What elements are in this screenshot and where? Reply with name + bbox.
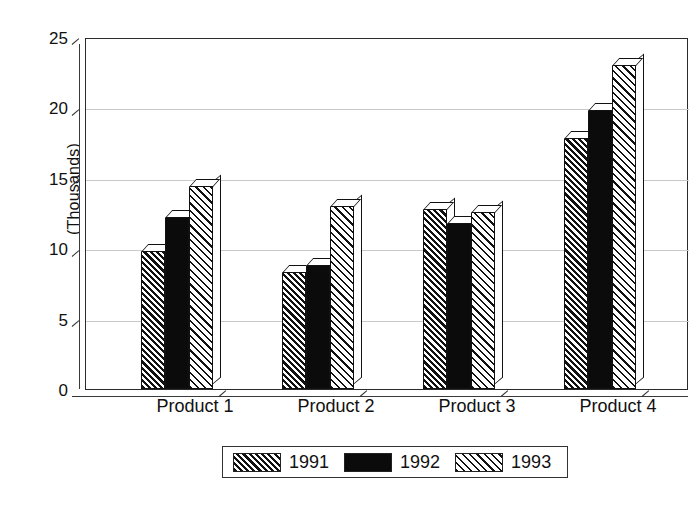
bar-face xyxy=(447,223,471,389)
y-tick-mark-0 xyxy=(72,396,81,397)
legend-label-1993: 1993 xyxy=(511,453,557,471)
legend-label-1991: 1991 xyxy=(289,453,335,471)
y-tick-label-10: 10 xyxy=(34,241,68,258)
bar-product-1-1991 xyxy=(141,251,165,389)
legend-item-1991: 1991 xyxy=(233,453,335,472)
chart-legend: 1991 1992 1993 xyxy=(222,446,568,478)
bar-face xyxy=(588,110,612,389)
bar-face xyxy=(282,272,306,389)
bar-product-4-1991 xyxy=(564,138,588,389)
y-tick-label-15: 15 xyxy=(34,171,68,188)
bar-product-3-1991 xyxy=(423,209,447,389)
legend-swatch-1991 xyxy=(233,453,281,472)
bar-product-1-1993 xyxy=(189,186,213,389)
bar-side xyxy=(494,200,503,385)
plot-area xyxy=(85,38,688,390)
x-tick-label-product-3: Product 3 xyxy=(412,396,542,416)
bar-product-4-1992 xyxy=(588,110,612,389)
legend-item-1993: 1993 xyxy=(455,453,557,472)
bar-side xyxy=(635,53,644,385)
legend-label-1992: 1992 xyxy=(400,453,446,471)
bar-product-3-1992 xyxy=(447,223,471,389)
y-tick-label-25: 25 xyxy=(34,30,68,47)
bar-product-2-1993 xyxy=(330,206,354,389)
legend-item-1992: 1992 xyxy=(344,453,446,472)
x-tick-label-product-4: Product 4 xyxy=(553,396,683,416)
x-tick-label-product-1: Product 1 xyxy=(130,396,260,416)
bar-product-1-1992 xyxy=(165,217,189,389)
bar-face xyxy=(189,186,213,389)
bar-face xyxy=(471,212,495,389)
bar-face xyxy=(141,251,165,389)
y-tick-label-0: 0 xyxy=(34,382,68,399)
bar-product-4-1993 xyxy=(612,65,636,389)
y-tick-label-5: 5 xyxy=(34,312,68,329)
bar-face xyxy=(612,65,636,389)
bar-face xyxy=(423,209,447,389)
bar-side xyxy=(212,174,221,385)
bar-face xyxy=(306,265,330,389)
bar-side xyxy=(353,194,362,385)
legend-swatch-1992 xyxy=(344,453,392,472)
bar-face xyxy=(564,138,588,389)
bar-product-2-1991 xyxy=(282,272,306,389)
bar-face xyxy=(330,206,354,389)
bar-chart-figure: (Thousands) xyxy=(0,0,700,516)
bar-product-3-1993 xyxy=(471,212,495,389)
y-tick-label-20: 20 xyxy=(34,100,68,117)
x-tick-label-product-2: Product 2 xyxy=(271,396,401,416)
bar-face xyxy=(165,217,189,389)
legend-swatch-1993 xyxy=(455,453,503,472)
bar-product-2-1992 xyxy=(306,265,330,389)
